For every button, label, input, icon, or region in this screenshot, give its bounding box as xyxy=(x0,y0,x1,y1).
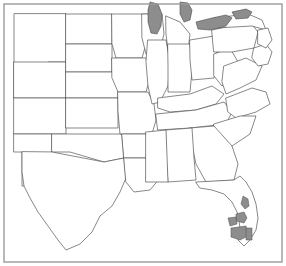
indiana: Indiana xyxy=(168,44,192,92)
missouri: Missouri xyxy=(118,92,156,134)
fl-highlight-5: south-florida-shaded-area-5 xyxy=(246,228,252,240)
wyoming: Wyoming xyxy=(14,62,66,98)
nebraska: Nebraska xyxy=(66,72,118,98)
us-state-outline-map[interactable]: Montana / WyomingWyomingColoradoNew Mexi… xyxy=(0,0,286,266)
alabama: Alabama xyxy=(166,128,196,182)
south-dakota: South Dakota xyxy=(66,44,112,72)
map-border-frame: Montana / WyomingWyomingColoradoNew Mexi… xyxy=(0,0,286,266)
kansas: Kansas xyxy=(66,98,118,128)
colorado: Colorado xyxy=(14,98,66,134)
map-figure: Montana / WyomingWyomingColoradoNew Mexi… xyxy=(0,0,286,266)
mississippi: Mississippi xyxy=(146,130,168,182)
north-dakota: North Dakota xyxy=(66,14,112,44)
iowa: Iowa xyxy=(112,58,150,92)
